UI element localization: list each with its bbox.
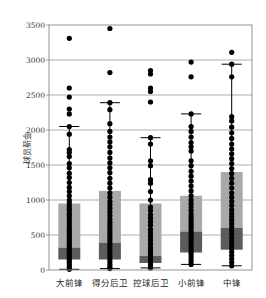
data-point xyxy=(189,183,194,188)
y-tick-label: 3000 xyxy=(26,56,45,65)
y-tick-label: 3500 xyxy=(26,21,45,30)
data-point xyxy=(229,130,234,135)
data-point xyxy=(107,139,112,144)
outlier-point xyxy=(67,36,72,41)
box-4 xyxy=(221,50,243,269)
data-point xyxy=(189,262,194,267)
data-point xyxy=(67,175,72,180)
box-3 xyxy=(180,60,202,268)
data-point xyxy=(67,154,72,159)
data-point xyxy=(107,150,112,155)
data-point xyxy=(189,169,194,174)
data-point xyxy=(229,151,234,156)
data-point xyxy=(107,107,112,112)
data-point xyxy=(107,155,112,160)
data-point xyxy=(67,180,72,185)
data-point xyxy=(189,174,194,179)
y-tick-label: 2500 xyxy=(26,91,45,100)
data-point xyxy=(67,267,72,272)
box-2 xyxy=(140,68,162,271)
outlier-point xyxy=(148,99,153,104)
data-point xyxy=(229,186,234,191)
outlier-point xyxy=(67,95,72,100)
outlier-point xyxy=(107,26,112,31)
data-point xyxy=(107,129,112,134)
data-point xyxy=(229,181,234,186)
data-point xyxy=(189,179,194,184)
box-1 xyxy=(99,26,121,271)
data-point xyxy=(229,74,234,79)
data-point xyxy=(229,263,234,268)
x-category-label: 小前锋 xyxy=(178,278,205,288)
data-point xyxy=(107,144,112,149)
data-point xyxy=(67,132,72,137)
data-point xyxy=(107,170,112,175)
data-point xyxy=(107,165,112,170)
outlier-point xyxy=(189,74,194,79)
data-point xyxy=(107,176,112,181)
outlier-point xyxy=(107,70,112,75)
data-point xyxy=(67,124,72,129)
outlier-point xyxy=(67,111,72,116)
data-point xyxy=(189,163,194,168)
data-point xyxy=(148,141,153,146)
data-point xyxy=(189,134,194,139)
y-axis-label: 球员薪金 xyxy=(22,132,32,164)
data-point xyxy=(107,160,112,165)
data-point xyxy=(229,176,234,181)
data-point xyxy=(107,134,112,139)
data-point xyxy=(229,171,234,176)
x-category-label: 控球后卫 xyxy=(133,278,169,288)
data-point xyxy=(189,158,194,163)
y-tick-label: 0 xyxy=(40,266,45,275)
data-point xyxy=(148,158,153,163)
outlier-point xyxy=(67,85,72,90)
data-point xyxy=(189,188,194,193)
data-point xyxy=(229,141,234,146)
box-0 xyxy=(58,36,80,272)
data-point xyxy=(229,156,234,161)
box-plot-chart: 0500100015002000250030003500 大前锋得分后卫控球后卫… xyxy=(0,0,266,298)
data-point xyxy=(229,161,234,166)
x-axis-labels: 大前锋得分后卫控球后卫小前锋中锋 xyxy=(56,278,241,288)
data-point xyxy=(229,62,234,67)
data-point xyxy=(189,111,194,116)
data-point xyxy=(148,163,153,168)
x-category-label: 大前锋 xyxy=(56,278,83,288)
outlier-point xyxy=(148,89,153,94)
data-point xyxy=(229,146,234,151)
data-point xyxy=(107,181,112,186)
data-point xyxy=(148,197,153,202)
x-category-label: 得分后卫 xyxy=(92,278,128,288)
outlier-point xyxy=(189,60,194,65)
outlier-point xyxy=(229,50,234,55)
x-category-label: 中锋 xyxy=(223,278,241,288)
data-point xyxy=(229,125,234,130)
data-point xyxy=(107,121,112,126)
data-point xyxy=(107,186,112,191)
data-point xyxy=(107,100,112,105)
data-point xyxy=(148,181,153,186)
data-point xyxy=(229,166,234,171)
data-point xyxy=(148,135,153,140)
data-point xyxy=(148,189,153,194)
outlier-point xyxy=(148,71,153,76)
y-tick-label: 500 xyxy=(31,231,46,240)
data-point xyxy=(189,129,194,134)
data-point xyxy=(189,124,194,129)
data-point xyxy=(229,118,234,123)
data-point xyxy=(189,148,194,153)
y-tick-label: 1000 xyxy=(26,196,45,205)
data-point xyxy=(67,165,72,170)
data-point xyxy=(229,136,234,141)
outlier-point xyxy=(67,106,72,111)
